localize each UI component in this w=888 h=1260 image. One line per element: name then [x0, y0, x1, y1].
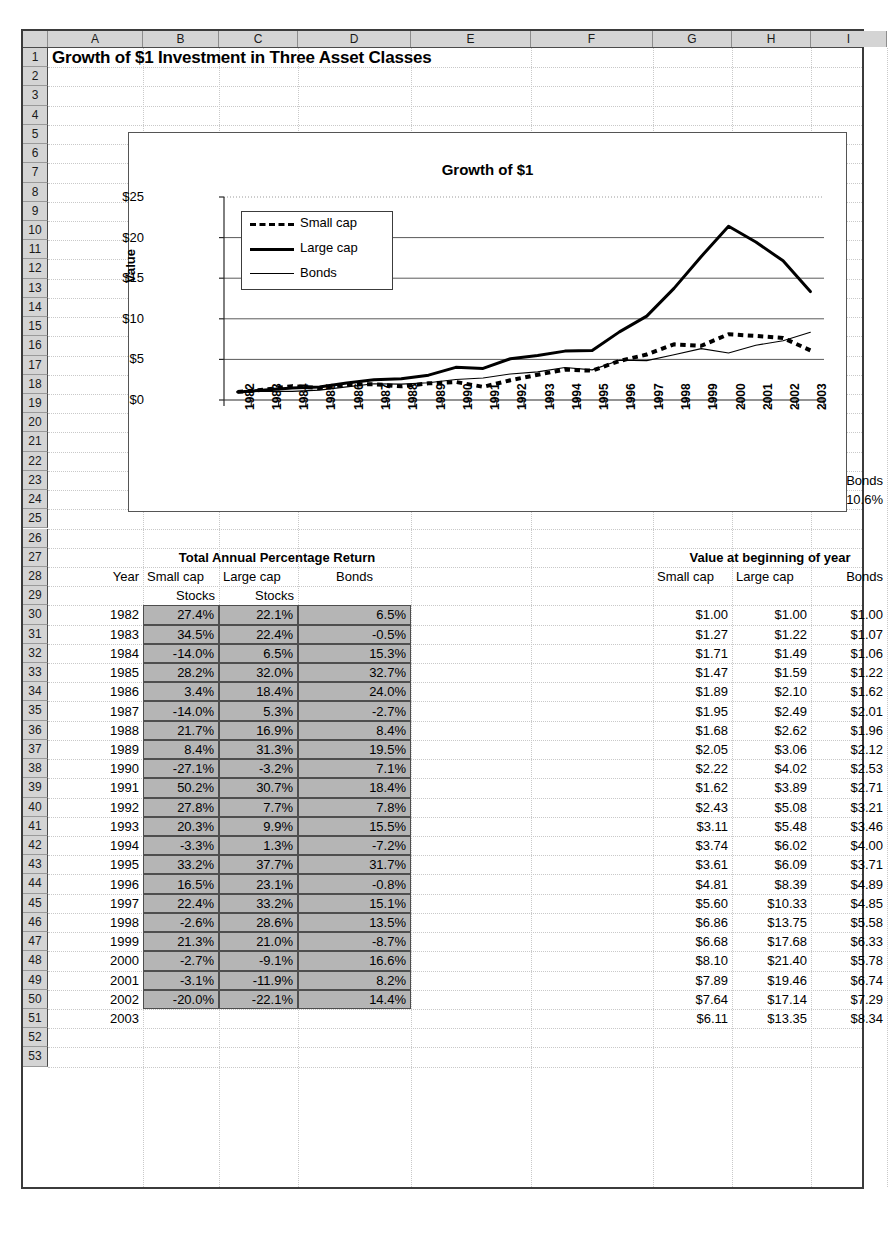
- cell-largecap-return[interactable]: 22.4%: [219, 625, 298, 644]
- cell-bonds-value[interactable]: $4.89: [811, 874, 887, 893]
- row-header-20[interactable]: 20: [23, 413, 48, 432]
- cell-year[interactable]: 2002: [48, 990, 143, 1009]
- row-header-6[interactable]: 6: [23, 144, 48, 163]
- cell-largecap-return[interactable]: 23.1%: [219, 874, 298, 893]
- cell-smallcap-value[interactable]: $7.64: [653, 990, 732, 1009]
- row-header-1[interactable]: 1: [23, 48, 48, 67]
- row-header-39[interactable]: 39: [23, 778, 48, 797]
- cell-bonds-return[interactable]: 8.4%: [298, 721, 411, 740]
- legend-item-bonds[interactable]: Bonds: [242, 262, 392, 287]
- cell-largecap-return[interactable]: 28.6%: [219, 913, 298, 932]
- cell-largecap-value[interactable]: $3.89: [732, 778, 811, 797]
- cell-largecap-value[interactable]: $13.75: [732, 913, 811, 932]
- cell-largecap-return[interactable]: 6.5%: [219, 644, 298, 663]
- cell-largecap-return[interactable]: 7.7%: [219, 798, 298, 817]
- row-header-38[interactable]: 38: [23, 759, 48, 778]
- row-header-19[interactable]: 19: [23, 394, 48, 413]
- cell-bonds-value[interactable]: $1.06: [811, 644, 887, 663]
- row-header-42[interactable]: 42: [23, 836, 48, 855]
- cell-smallcap-return[interactable]: 16.5%: [143, 874, 219, 893]
- cell-bonds-value[interactable]: $3.46: [811, 817, 887, 836]
- cell-smallcap-return[interactable]: 27.4%: [143, 605, 219, 624]
- row-header-43[interactable]: 43: [23, 855, 48, 874]
- cell-bonds-value[interactable]: $3.21: [811, 798, 887, 817]
- cell-smallcap-return[interactable]: -27.1%: [143, 759, 219, 778]
- cell-bonds-value[interactable]: $7.29: [811, 990, 887, 1009]
- cell-largecap-return[interactable]: 9.9%: [219, 817, 298, 836]
- cell-smallcap-return[interactable]: 28.2%: [143, 663, 219, 682]
- cell-smallcap-value[interactable]: $8.10: [653, 951, 732, 970]
- column-header-i[interactable]: I: [811, 31, 887, 47]
- cell-largecap-return[interactable]: 1.3%: [219, 836, 298, 855]
- row-header-44[interactable]: 44: [23, 874, 48, 893]
- row-header-11[interactable]: 11: [23, 240, 48, 259]
- cell-b27-left-table-title[interactable]: Total Annual Percentage Return: [143, 548, 411, 567]
- cell-bonds-value[interactable]: $2.12: [811, 740, 887, 759]
- cell-year[interactable]: 1999: [48, 932, 143, 951]
- cell-year[interactable]: 2001: [48, 971, 143, 990]
- cell-bonds-value[interactable]: $8.34: [811, 1009, 887, 1028]
- cell-bonds-return[interactable]: 31.7%: [298, 855, 411, 874]
- cell-largecap-value[interactable]: $1.59: [732, 663, 811, 682]
- cell-year[interactable]: 2003: [48, 1009, 143, 1028]
- legend-item-small-cap[interactable]: Small cap: [242, 212, 392, 237]
- row-header-27[interactable]: 27: [23, 548, 48, 567]
- cell-largecap-value[interactable]: $3.06: [732, 740, 811, 759]
- cell-largecap-value[interactable]: $13.35: [732, 1009, 811, 1028]
- column-header-b[interactable]: B: [143, 31, 219, 47]
- row-header-15[interactable]: 15: [23, 317, 48, 336]
- cell-bonds-return[interactable]: -7.2%: [298, 836, 411, 855]
- cell-smallcap-return[interactable]: 50.2%: [143, 778, 219, 797]
- cell-largecap-value[interactable]: $10.33: [732, 894, 811, 913]
- cell-smallcap-value[interactable]: $4.81: [653, 874, 732, 893]
- cell-year[interactable]: 1997: [48, 894, 143, 913]
- cell-smallcap-return[interactable]: -2.7%: [143, 951, 219, 970]
- row-header-21[interactable]: 21: [23, 432, 48, 451]
- cell-smallcap-value[interactable]: $3.11: [653, 817, 732, 836]
- cell-bonds-return[interactable]: 19.5%: [298, 740, 411, 759]
- cell-smallcap-value[interactable]: $1.71: [653, 644, 732, 663]
- column-header-c[interactable]: C: [219, 31, 298, 47]
- cell-largecap-value[interactable]: $19.46: [732, 971, 811, 990]
- cell-bonds-value[interactable]: $3.71: [811, 855, 887, 874]
- cell-smallcap-return[interactable]: -14.0%: [143, 701, 219, 720]
- cell-smallcap-value[interactable]: $1.62: [653, 778, 732, 797]
- spreadsheet-grid[interactable]: ABCDEFGHI1234567891011121314151617181920…: [21, 29, 864, 1189]
- cell-smallcap-return[interactable]: 21.3%: [143, 932, 219, 951]
- chart-legend[interactable]: Small capLarge capBonds: [241, 211, 393, 290]
- cell-bonds-value[interactable]: $2.71: [811, 778, 887, 797]
- row-header-10[interactable]: 10: [23, 221, 48, 240]
- cell-year[interactable]: 1996: [48, 874, 143, 893]
- cell-bonds-value[interactable]: $2.01: [811, 701, 887, 720]
- cell-bonds-return[interactable]: 8.2%: [298, 971, 411, 990]
- row-header-22[interactable]: 22: [23, 452, 48, 471]
- cell-bonds-return[interactable]: 7.1%: [298, 759, 411, 778]
- cell-smallcap-value[interactable]: $1.89: [653, 682, 732, 701]
- cell-year[interactable]: 1990: [48, 759, 143, 778]
- cell-largecap-value[interactable]: $8.39: [732, 874, 811, 893]
- cell-bonds-value[interactable]: $4.85: [811, 894, 887, 913]
- column-header-h[interactable]: H: [732, 31, 811, 47]
- cell-year[interactable]: 1986: [48, 682, 143, 701]
- row-header-37[interactable]: 37: [23, 740, 48, 759]
- cell-smallcap-return[interactable]: 34.5%: [143, 625, 219, 644]
- row-header-46[interactable]: 46: [23, 913, 48, 932]
- column-header-f[interactable]: F: [531, 31, 653, 47]
- row-header-33[interactable]: 33: [23, 663, 48, 682]
- cell-smallcap-return[interactable]: 20.3%: [143, 817, 219, 836]
- cell-smallcap-return[interactable]: 22.4%: [143, 894, 219, 913]
- cell-largecap-return[interactable]: 16.9%: [219, 721, 298, 740]
- cell-smallcap-value[interactable]: $1.68: [653, 721, 732, 740]
- row-header-14[interactable]: 14: [23, 298, 48, 317]
- cell-bonds-return[interactable]: 18.4%: [298, 778, 411, 797]
- cell-year[interactable]: 1991: [48, 778, 143, 797]
- row-header-16[interactable]: 16: [23, 336, 48, 355]
- cell-largecap-value[interactable]: $4.02: [732, 759, 811, 778]
- cell-bonds-return[interactable]: 14.4%: [298, 990, 411, 1009]
- row-header-25[interactable]: 25: [23, 509, 48, 528]
- row-header-30[interactable]: 30: [23, 605, 48, 624]
- cell-smallcap-value[interactable]: $2.05: [653, 740, 732, 759]
- cell-smallcap-value[interactable]: $6.68: [653, 932, 732, 951]
- cell-smallcap-value[interactable]: $6.11: [653, 1009, 732, 1028]
- row-header-50[interactable]: 50: [23, 990, 48, 1009]
